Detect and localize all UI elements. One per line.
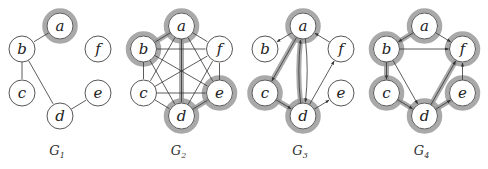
node-f: f xyxy=(328,36,354,62)
node-a: a xyxy=(412,13,438,39)
node-b: b xyxy=(9,36,35,62)
node-label: b xyxy=(139,40,149,58)
node-b: b xyxy=(131,36,157,62)
node-d: d xyxy=(290,103,316,129)
graph-g4: abcdefG4 xyxy=(371,11,478,161)
node-label: d xyxy=(298,107,308,125)
edge-a-d xyxy=(305,39,307,102)
node-label: a xyxy=(420,17,429,35)
node-label: e xyxy=(458,84,467,102)
node-c: c xyxy=(9,80,35,106)
graph-title: G1 xyxy=(49,143,64,160)
node-a: a xyxy=(290,13,316,39)
node-label: d xyxy=(55,107,65,125)
node-d: d xyxy=(47,103,73,129)
node-label: a xyxy=(56,17,65,35)
node-e: e xyxy=(85,80,111,106)
graph-title: G2 xyxy=(171,143,186,160)
node-label: a xyxy=(177,17,186,35)
node-e: e xyxy=(328,80,354,106)
node-e: e xyxy=(450,80,476,106)
node-label: e xyxy=(215,84,224,102)
node-f: f xyxy=(207,36,233,62)
node-d: d xyxy=(412,103,438,129)
node-label: e xyxy=(337,84,346,102)
node-label: a xyxy=(299,17,308,35)
edge-d-e xyxy=(71,100,86,109)
node-b: b xyxy=(374,36,400,62)
node-label: c xyxy=(139,84,148,102)
node-f: f xyxy=(85,36,111,62)
node-e: e xyxy=(207,80,233,106)
node-a: a xyxy=(169,13,195,39)
node-label: d xyxy=(420,107,430,125)
graph-g1: abcdefG1 xyxy=(9,11,111,161)
node-label: c xyxy=(261,84,270,102)
graph-figure: abcdefG1abcdefG2abcdefG3abcdefG4 xyxy=(0,0,488,169)
node-c: c xyxy=(252,80,278,106)
graph-title: G4 xyxy=(414,143,429,160)
node-c: c xyxy=(131,80,157,106)
edge-f-a xyxy=(315,33,330,42)
graph-title: G3 xyxy=(292,143,307,160)
node-label: c xyxy=(18,84,27,102)
node-label: b xyxy=(17,40,27,58)
graph-g3: abcdefG3 xyxy=(250,11,355,161)
node-label: b xyxy=(382,40,392,58)
node-b: b xyxy=(252,36,278,62)
node-label: b xyxy=(260,40,270,58)
node-d: d xyxy=(169,103,195,129)
node-label: c xyxy=(382,84,391,102)
node-c: c xyxy=(374,80,400,106)
node-label: e xyxy=(94,84,103,102)
node-a: a xyxy=(47,13,73,39)
graph-g2: abcdefG2 xyxy=(128,11,235,161)
node-f: f xyxy=(450,36,476,62)
node-label: d xyxy=(177,107,187,125)
edge-c-d xyxy=(155,100,170,109)
